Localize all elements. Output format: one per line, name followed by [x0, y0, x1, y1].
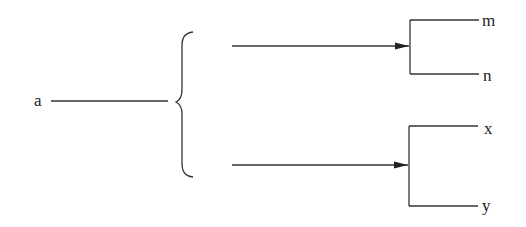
leaf-node-label-y: y: [482, 196, 491, 215]
top-branch-bracket: [410, 20, 479, 74]
curly-brace: [176, 32, 193, 177]
leaf-node-label-m: m: [482, 11, 495, 30]
diagram-canvas: a m n x y: [0, 0, 526, 227]
bottom-branch-bracket: [409, 126, 478, 206]
leaf-node-label-n: n: [483, 66, 492, 85]
root-node-label: a: [34, 91, 42, 110]
leaf-node-label-x: x: [484, 119, 493, 138]
